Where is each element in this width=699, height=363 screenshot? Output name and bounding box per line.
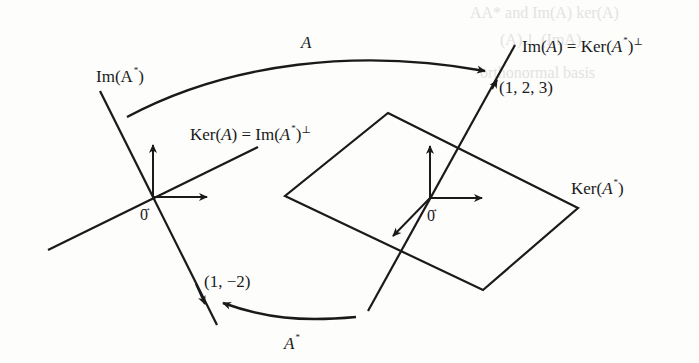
right-origin-label: →0: [427, 208, 435, 224]
point-1-2-3-label: (1, 2, 3): [499, 79, 553, 96]
map-a-star-label: A*: [284, 333, 300, 352]
point-1-neg2-label: (1, −2): [204, 273, 250, 290]
left-origin-label: →0: [140, 207, 148, 223]
im-a-label: Im(A) = Ker(A*)⊥: [522, 36, 643, 55]
map-a-arrow: [127, 60, 485, 117]
ker-a-label: Ker(A) = Im(A*)⊥: [190, 124, 311, 143]
ker-a-star-label: Ker(A*): [571, 178, 624, 197]
map-a-star-arrow: [223, 303, 356, 319]
diagram-canvas: AA* and Im(A) ker(A) (A)⊥ (ImA) orthonor…: [0, 0, 699, 363]
im-a-star-label: Im(A*): [96, 66, 144, 85]
map-a-label: A: [301, 34, 311, 51]
